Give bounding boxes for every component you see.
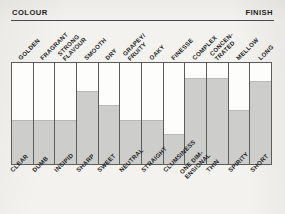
top-axis-label: FINESSE bbox=[170, 38, 194, 62]
bar-fill bbox=[250, 81, 271, 164]
bar-fill bbox=[77, 91, 98, 164]
bottom-axis-label-group: CLEARDUMBINSIPIDSHARPSWEETNEUTRALSTRAIGH… bbox=[11, 167, 272, 212]
top-axis-label: GOLDEN bbox=[18, 38, 42, 62]
chart-column[interactable] bbox=[99, 63, 121, 164]
chart-column[interactable] bbox=[12, 63, 34, 164]
flavour-profile-chart: COLOUR FINISH GOLDENFRAGRANTSTRONG FLAVO… bbox=[0, 0, 285, 214]
chart-column[interactable] bbox=[229, 63, 251, 164]
chart-column[interactable] bbox=[250, 63, 271, 164]
axis-header-colour: COLOUR bbox=[12, 8, 48, 17]
top-axis-label: GRAPEY/ FRUITY bbox=[122, 32, 152, 62]
top-axis-label: DRY bbox=[105, 48, 119, 62]
axis-header-finish: FINISH bbox=[245, 8, 273, 17]
header-divider-rule bbox=[11, 20, 274, 21]
chart-column[interactable] bbox=[207, 63, 229, 164]
bar-fill bbox=[207, 78, 228, 164]
chart-column[interactable] bbox=[77, 63, 99, 164]
chart-column[interactable] bbox=[34, 63, 56, 164]
top-axis-label: LONG bbox=[257, 44, 275, 62]
top-axis-label-group: GOLDENFRAGRANTSTRONG FLAVOURSMOOTHDRYGRA… bbox=[11, 24, 272, 62]
top-axis-label: OAKY bbox=[148, 44, 166, 62]
chart-column[interactable] bbox=[55, 63, 77, 164]
